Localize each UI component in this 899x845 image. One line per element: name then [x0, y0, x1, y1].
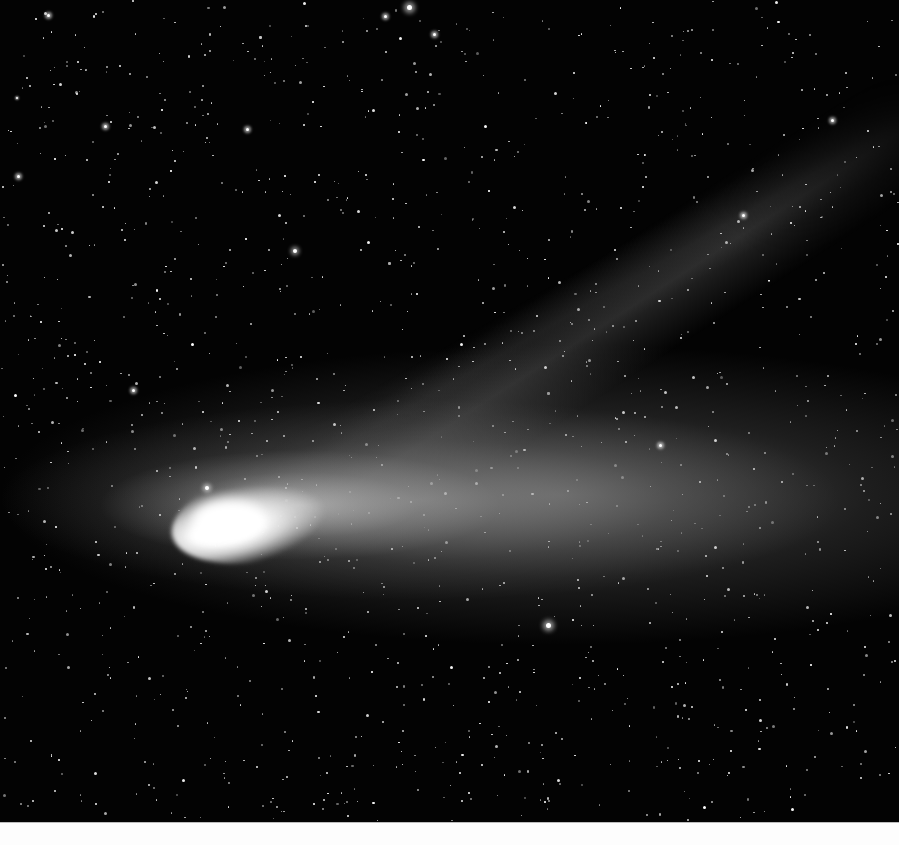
star: [504, 774, 506, 776]
star: [541, 744, 543, 746]
star: [581, 625, 583, 627]
star: [43, 225, 45, 227]
star: [182, 779, 185, 782]
star: [461, 51, 463, 53]
star: [67, 355, 69, 357]
star: [614, 464, 617, 467]
star: [99, 361, 101, 363]
star: [555, 732, 557, 734]
star: [319, 660, 321, 662]
star: [565, 176, 567, 178]
star: [225, 446, 227, 448]
star: [492, 287, 495, 290]
star: [149, 196, 151, 198]
star: [432, 230, 434, 232]
star: [436, 192, 438, 194]
star: [876, 516, 879, 519]
star: [498, 92, 500, 94]
star: [28, 408, 30, 410]
star: [191, 343, 194, 346]
star: [271, 389, 274, 392]
star: [880, 503, 882, 505]
star: [51, 754, 53, 756]
star: [29, 618, 31, 620]
star: [510, 330, 512, 332]
star: [856, 430, 858, 432]
star: [821, 216, 823, 218]
star: [390, 498, 392, 500]
star: [713, 322, 715, 324]
star: [644, 416, 646, 418]
star: [134, 229, 136, 231]
star: [781, 481, 783, 483]
star: [527, 258, 529, 260]
star: [588, 687, 590, 689]
star: [578, 35, 580, 37]
star: [814, 88, 816, 90]
star: [825, 452, 828, 455]
star: [426, 194, 428, 196]
star: [837, 430, 839, 432]
star: [229, 391, 231, 393]
star: [544, 259, 546, 261]
star: [667, 760, 669, 762]
star: [859, 353, 861, 355]
star: [868, 576, 870, 578]
star: [242, 191, 244, 193]
star: [652, 22, 654, 24]
star: [260, 402, 262, 404]
star: [860, 777, 862, 779]
star: [269, 25, 271, 27]
star: [629, 725, 631, 727]
star: [879, 338, 882, 341]
star: [701, 528, 703, 530]
star: [576, 479, 578, 481]
star: [703, 659, 705, 661]
star: [324, 556, 326, 558]
star: [891, 455, 894, 458]
star: [742, 561, 744, 563]
star: [671, 686, 673, 688]
star: [322, 276, 324, 278]
star: [397, 497, 399, 499]
star: [678, 759, 680, 761]
star: [463, 335, 465, 337]
star: [28, 510, 30, 512]
star: [513, 206, 516, 209]
star: [522, 210, 524, 212]
star: [754, 504, 756, 506]
star: [433, 104, 435, 106]
star: [612, 710, 614, 712]
star: [86, 351, 88, 353]
star: [664, 391, 667, 394]
star: [557, 779, 560, 782]
star: [250, 323, 252, 325]
star: [227, 441, 229, 443]
star: [304, 644, 306, 646]
star: [342, 30, 344, 32]
star: [285, 371, 287, 373]
star: [867, 130, 869, 132]
star: [401, 152, 403, 154]
star: [50, 70, 52, 72]
star: [886, 319, 888, 321]
star: [272, 798, 274, 800]
star: [574, 293, 576, 295]
star: [694, 523, 696, 525]
star: [172, 709, 174, 711]
star: [679, 639, 681, 641]
star: [528, 742, 530, 744]
star: [503, 582, 505, 584]
star: [159, 514, 161, 516]
star: [740, 817, 742, 819]
star: [131, 424, 133, 426]
star: [287, 258, 289, 260]
bright-star: [384, 15, 387, 18]
star: [538, 597, 540, 599]
star: [492, 12, 494, 14]
star: [133, 606, 135, 608]
star: [880, 225, 882, 227]
star: [229, 434, 231, 436]
star: [445, 541, 448, 544]
star: [871, 467, 873, 469]
